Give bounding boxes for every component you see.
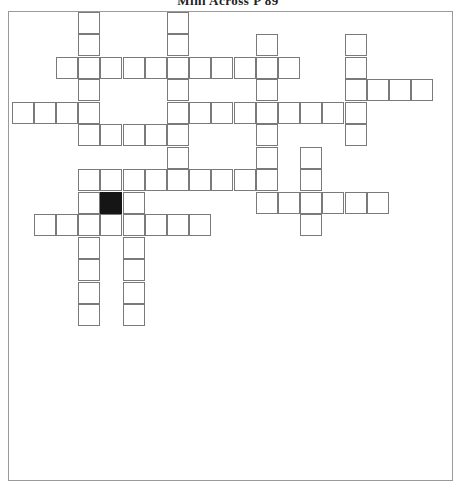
crossword-cell[interactable] bbox=[367, 192, 389, 214]
crossword-cell[interactable] bbox=[100, 124, 122, 146]
crossword-cell[interactable] bbox=[300, 169, 322, 191]
crossword-cell[interactable] bbox=[56, 57, 78, 79]
crossword-cell[interactable] bbox=[145, 57, 167, 79]
crossword-cell[interactable] bbox=[78, 102, 100, 124]
crossword-cell[interactable] bbox=[167, 57, 189, 79]
crossword-cell[interactable] bbox=[345, 124, 367, 146]
black-square bbox=[100, 192, 122, 214]
crossword-cell[interactable] bbox=[100, 169, 122, 191]
crossword-cell[interactable] bbox=[56, 102, 78, 124]
crossword-cell[interactable] bbox=[345, 79, 367, 101]
crossword-cell[interactable] bbox=[78, 304, 100, 326]
crossword-cell[interactable] bbox=[100, 214, 122, 236]
puzzle-title: Mini Across P 89 bbox=[0, 0, 456, 9]
crossword-cell[interactable] bbox=[78, 169, 100, 191]
crossword-cell[interactable] bbox=[256, 79, 278, 101]
crossword-cell[interactable] bbox=[56, 214, 78, 236]
crossword-cell[interactable] bbox=[189, 102, 211, 124]
crossword-cell[interactable] bbox=[278, 57, 300, 79]
crossword-cell[interactable] bbox=[256, 34, 278, 56]
crossword-cell[interactable] bbox=[167, 214, 189, 236]
crossword-cell[interactable] bbox=[145, 124, 167, 146]
crossword-cell[interactable] bbox=[123, 282, 145, 304]
crossword-cell[interactable] bbox=[189, 169, 211, 191]
crossword-cell[interactable] bbox=[345, 192, 367, 214]
crossword-cell[interactable] bbox=[123, 169, 145, 191]
crossword-cell[interactable] bbox=[234, 169, 256, 191]
crossword-cell[interactable] bbox=[34, 214, 56, 236]
crossword-cell[interactable] bbox=[167, 79, 189, 101]
crossword-cell[interactable] bbox=[78, 79, 100, 101]
crossword-cell[interactable] bbox=[78, 192, 100, 214]
crossword-cell[interactable] bbox=[167, 102, 189, 124]
crossword-cell[interactable] bbox=[123, 237, 145, 259]
crossword-cell[interactable] bbox=[211, 169, 233, 191]
crossword-cell[interactable] bbox=[78, 214, 100, 236]
crossword-cell[interactable] bbox=[411, 79, 433, 101]
crossword-cell[interactable] bbox=[189, 214, 211, 236]
crossword-cell[interactable] bbox=[145, 169, 167, 191]
crossword-cell[interactable] bbox=[78, 12, 100, 34]
crossword-cell[interactable] bbox=[78, 124, 100, 146]
crossword-cell[interactable] bbox=[345, 34, 367, 56]
crossword-cell[interactable] bbox=[167, 124, 189, 146]
crossword-cell[interactable] bbox=[278, 102, 300, 124]
crossword-cell[interactable] bbox=[322, 102, 344, 124]
crossword-cell[interactable] bbox=[167, 12, 189, 34]
crossword-cell[interactable] bbox=[123, 259, 145, 281]
crossword-cell[interactable] bbox=[256, 147, 278, 169]
crossword-cell[interactable] bbox=[345, 102, 367, 124]
crossword-cell[interactable] bbox=[278, 192, 300, 214]
crossword-cell[interactable] bbox=[300, 214, 322, 236]
crossword-cell[interactable] bbox=[123, 214, 145, 236]
crossword-cell[interactable] bbox=[78, 282, 100, 304]
crossword-cell[interactable] bbox=[34, 102, 56, 124]
crossword-cell[interactable] bbox=[123, 304, 145, 326]
crossword-cell[interactable] bbox=[78, 57, 100, 79]
crossword-cell[interactable] bbox=[78, 259, 100, 281]
crossword-cell[interactable] bbox=[300, 192, 322, 214]
crossword-cell[interactable] bbox=[189, 57, 211, 79]
crossword-cell[interactable] bbox=[345, 57, 367, 79]
crossword-cell[interactable] bbox=[167, 147, 189, 169]
crossword-cell[interactable] bbox=[234, 57, 256, 79]
crossword-cell[interactable] bbox=[211, 57, 233, 79]
crossword-cell[interactable] bbox=[100, 57, 122, 79]
crossword-cell[interactable] bbox=[123, 57, 145, 79]
crossword-cell[interactable] bbox=[256, 102, 278, 124]
crossword-cell[interactable] bbox=[367, 79, 389, 101]
crossword-cell[interactable] bbox=[256, 57, 278, 79]
crossword-cell[interactable] bbox=[256, 192, 278, 214]
crossword-cell[interactable] bbox=[322, 192, 344, 214]
crossword-cell[interactable] bbox=[300, 147, 322, 169]
crossword-cell[interactable] bbox=[300, 102, 322, 124]
crossword-cell[interactable] bbox=[12, 102, 34, 124]
crossword-cell[interactable] bbox=[389, 79, 411, 101]
crossword-cell[interactable] bbox=[78, 34, 100, 56]
crossword-cell[interactable] bbox=[78, 237, 100, 259]
crossword-cell[interactable] bbox=[167, 169, 189, 191]
crossword-cell[interactable] bbox=[211, 102, 233, 124]
crossword-cell[interactable] bbox=[123, 124, 145, 146]
crossword-cell[interactable] bbox=[167, 34, 189, 56]
crossword-cell[interactable] bbox=[256, 124, 278, 146]
crossword-cell[interactable] bbox=[145, 214, 167, 236]
crossword-cell[interactable] bbox=[123, 192, 145, 214]
crossword-cell[interactable] bbox=[256, 169, 278, 191]
crossword-cell[interactable] bbox=[234, 102, 256, 124]
